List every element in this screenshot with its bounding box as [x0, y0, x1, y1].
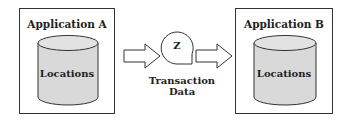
- application-a-box: Application A Locations: [19, 8, 115, 114]
- arrow-right-icon: [195, 43, 233, 69]
- application-b-store-label: Locations: [236, 68, 332, 79]
- application-a-store-label: Locations: [20, 68, 114, 79]
- application-a-title: Application A: [20, 18, 114, 30]
- arrow-right-icon: [123, 43, 161, 69]
- application-b-title: Application B: [236, 18, 332, 30]
- application-b-box: Application B Locations: [235, 8, 333, 114]
- transaction-node-label: Z: [159, 40, 195, 51]
- transfer-caption: Transaction Data: [137, 75, 227, 97]
